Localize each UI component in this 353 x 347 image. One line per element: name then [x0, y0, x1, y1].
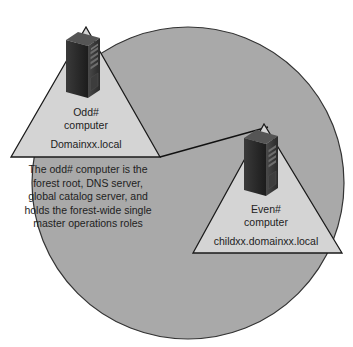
- server-tower-icon: [244, 130, 278, 196]
- description-line-3: global catalog server, and: [0, 190, 176, 204]
- child-computer-label: Even# computer: [238, 203, 294, 229]
- server-tower-icon: [66, 32, 100, 98]
- child-computer-label-line2: computer: [238, 216, 294, 229]
- description-line-5: master operations roles: [0, 217, 176, 231]
- root-computer-label-line1: Odd#: [56, 106, 116, 119]
- root-computer-label: Odd# computer: [56, 106, 116, 132]
- root-computer-label-line2: computer: [56, 119, 116, 132]
- description-line-4: holds the forest-wide single: [0, 204, 176, 218]
- root-domain-name: Domainxx.local: [36, 138, 136, 151]
- description-line-2: forest root, DNS server,: [0, 177, 176, 191]
- description-line-1: The odd# computer is the: [0, 163, 176, 177]
- child-computer-label-line1: Even#: [238, 203, 294, 216]
- child-domain-name: childxx.domainxx.local: [206, 235, 326, 248]
- root-role-description: The odd# computer is the forest root, DN…: [0, 163, 176, 231]
- forest-diagram: Odd# computer Domainxx.local The odd# co…: [0, 0, 353, 347]
